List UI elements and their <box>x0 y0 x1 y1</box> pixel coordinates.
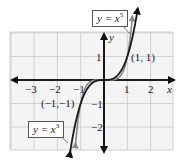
x-tick-minus3: −3 <box>25 84 37 95</box>
callout-x3-exponent: 3 <box>56 122 60 130</box>
x-tick-2: 2 <box>148 84 154 95</box>
point-label-neg1-neg1: (−1,−1) <box>41 98 74 109</box>
x-tick-minus1: −1 <box>73 84 85 95</box>
y-tick-1: 1 <box>96 52 102 63</box>
y-tick-minus1: −1 <box>91 99 103 110</box>
y-tick-minus2: −2 <box>91 122 103 133</box>
chart-stage: y x −3 −2 −1 1 2 1 −1 −2 (1, 1) (−1,−1) … <box>0 0 185 161</box>
point-label-1-1: (1, 1) <box>131 52 155 63</box>
callout-x5-base: y = x <box>97 12 120 24</box>
x-tick-1: 1 <box>124 84 130 95</box>
y-axis-label: y <box>109 32 114 43</box>
callout-x5-exponent: 5 <box>120 11 124 19</box>
x-axis-label: x <box>167 84 172 95</box>
x-tick-minus2: −2 <box>49 84 61 95</box>
callout-x3-base: y = x <box>33 123 56 135</box>
callout-x3: y = x3 <box>28 121 64 138</box>
callout-x5: y = x5 <box>92 10 128 27</box>
